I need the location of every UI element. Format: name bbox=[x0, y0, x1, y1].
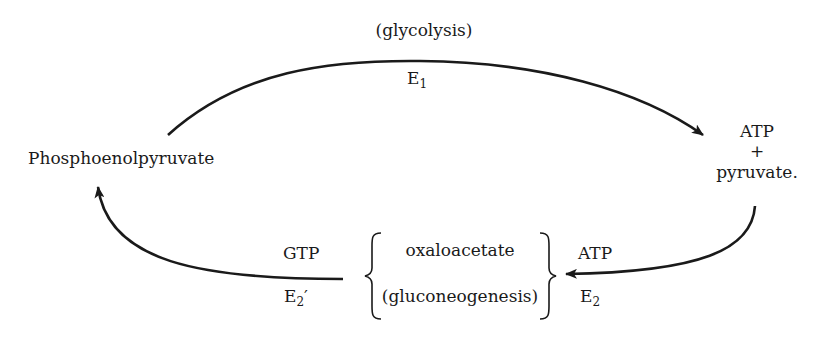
plus-sign: + bbox=[750, 143, 764, 160]
atp-cofactor-label: ATP bbox=[578, 245, 612, 262]
enzyme-e1-label: E1 bbox=[407, 70, 427, 90]
gtp-cofactor-label: GTP bbox=[283, 245, 319, 262]
glycolysis-arrow bbox=[168, 61, 703, 135]
atp-product-label: ATP bbox=[740, 123, 774, 140]
oxaloacetate-to-pep-arrow bbox=[98, 187, 343, 279]
oxaloacetate-label: oxaloacetate bbox=[405, 242, 514, 259]
pyruvate-to-oxaloacetate-arrow bbox=[566, 206, 755, 274]
enzyme-e2-prime-label: E2′ bbox=[284, 288, 308, 308]
phosphoenolpyruvate-label: Phosphoenolpyruvate bbox=[28, 150, 214, 167]
pyruvate-label: pyruvate. bbox=[716, 164, 798, 181]
right-brace bbox=[540, 233, 556, 319]
gluconeogenesis-label: (gluconeogenesis) bbox=[382, 288, 538, 305]
glycolysis-label: (glycolysis) bbox=[376, 22, 473, 39]
enzyme-e2-label: E2 bbox=[580, 288, 600, 308]
left-brace bbox=[365, 233, 381, 319]
